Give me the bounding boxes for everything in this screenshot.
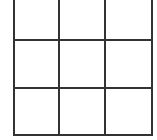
cell-0-2[interactable]: [106, 0, 153, 41]
cell-2-2[interactable]: [106, 89, 153, 136]
cell-1-1[interactable]: [60, 41, 106, 89]
cell-1-0[interactable]: [13, 41, 60, 89]
game-board: [13, 0, 154, 136]
cell-2-1[interactable]: [60, 89, 106, 136]
cell-1-2[interactable]: [106, 41, 153, 89]
cell-2-0[interactable]: [13, 89, 60, 136]
cell-0-1[interactable]: [60, 0, 106, 41]
cell-0-0[interactable]: [13, 0, 60, 41]
